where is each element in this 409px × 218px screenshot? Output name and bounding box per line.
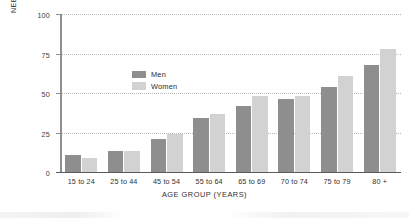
bar-women-70-to-74 — [295, 96, 311, 172]
x-tick-label-75-to-79: 75 to 79 — [323, 177, 350, 186]
x-tick-label-80-+: 80 + — [372, 177, 387, 186]
bar-women-15-to-24 — [82, 158, 98, 172]
bar-women-55-to-64 — [210, 114, 226, 172]
bar-group — [108, 14, 140, 172]
x-tick-label-70-to-74: 70 to 74 — [281, 177, 308, 186]
x-tick-label-65-to-69: 65 to 69 — [238, 177, 265, 186]
y-tick-label-25: 25 — [42, 129, 50, 138]
bar-group — [364, 14, 396, 172]
y-tick-label-0: 0 — [46, 169, 50, 178]
bar-men-45-to-54 — [151, 139, 167, 172]
bar-men-80-+ — [364, 65, 380, 172]
x-tick-label-15-to-24: 15 to 24 — [68, 177, 95, 186]
bar-women-80-+ — [380, 49, 396, 172]
bar-group — [65, 14, 97, 172]
legend-swatch-men — [132, 71, 146, 79]
legend-label-women: Women — [151, 82, 177, 91]
x-axis-title: AGE GROUP (YEARS) — [0, 190, 409, 199]
x-axis-line — [56, 172, 401, 173]
legend-label-men: Men — [151, 70, 166, 79]
bar-women-65-to-69 — [252, 96, 268, 172]
bar-group — [321, 14, 353, 172]
y-tick-label-75: 75 — [42, 50, 50, 59]
y-axis-title: PERCENTAGE NEEDING IADL ASSISTANCE — [6, 0, 32, 40]
bar-men-65-to-69 — [236, 106, 252, 172]
y-axis-title-line-2: NEEDING IADL ASSISTANCE — [9, 0, 19, 13]
legend-swatch-women — [132, 82, 146, 90]
bar-women-75-to-79 — [338, 76, 354, 172]
chart-figure: PERCENTAGE NEEDING IADL ASSISTANCE 02550… — [0, 0, 409, 218]
bar-women-45-to-54 — [167, 134, 183, 172]
bar-men-15-to-24 — [65, 155, 81, 172]
scan-artifact — [0, 212, 409, 218]
x-tick-label-55-to-64: 55 to 64 — [196, 177, 223, 186]
chart-legend: Men Women — [132, 70, 177, 91]
bar-group — [278, 14, 310, 172]
bar-group — [236, 14, 268, 172]
bar-men-55-to-64 — [193, 118, 209, 172]
plot-area: 0255075100 15 to 2425 to 4445 to 5455 to… — [60, 14, 401, 172]
bar-series-container — [60, 14, 401, 172]
y-tick-label-50: 50 — [42, 90, 50, 99]
bar-women-25-to-44 — [124, 151, 140, 172]
bar-group — [151, 14, 183, 172]
bar-group — [193, 14, 225, 172]
x-tick-label-45-to-54: 45 to 54 — [153, 177, 180, 186]
legend-item-men: Men — [132, 70, 177, 79]
bar-men-75-to-79 — [321, 87, 337, 172]
y-tick-label-100: 100 — [37, 11, 50, 20]
x-tick-label-25-to-44: 25 to 44 — [110, 177, 137, 186]
bar-men-25-to-44 — [108, 151, 124, 172]
bar-men-70-to-74 — [278, 99, 294, 172]
legend-item-women: Women — [132, 82, 177, 91]
